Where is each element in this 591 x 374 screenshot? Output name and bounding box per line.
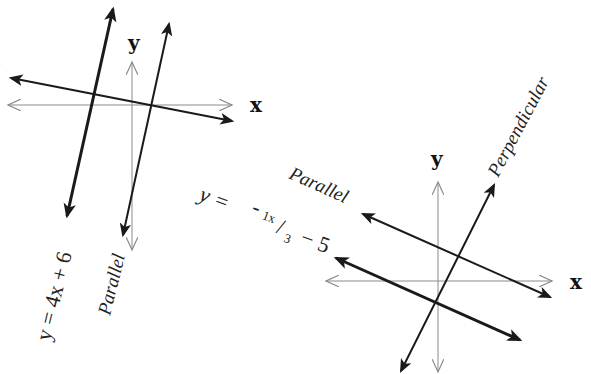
graph2-perpendicular-label: Perpendicular (483, 73, 554, 181)
graph2-parallel-line (363, 214, 550, 297)
graph-2: x y Perpendicular Parallel y = - 1x / 3 … (192, 73, 583, 372)
svg-text:Parallel: Parallel (93, 251, 129, 317)
svg-text:Perpendicular: Perpendicular (483, 73, 554, 181)
svg-text:y =: y = (194, 181, 233, 215)
svg-text:Parallel: Parallel (285, 162, 351, 207)
svg-text:− 5: − 5 (298, 224, 334, 257)
graph2-x-label: x (570, 270, 583, 294)
svg-text:3: 3 (282, 230, 293, 246)
graph1-parallel-line (123, 24, 169, 235)
graph1-given-line-label: y = 4x + 6 (31, 249, 77, 343)
svg-text:y = 4x + 6: y = 4x + 6 (31, 249, 77, 343)
graph2-y-label: y (430, 147, 444, 171)
graph1-y-label: y (127, 31, 141, 55)
graph1-given-line (67, 9, 113, 216)
graph1-parallel-label: Parallel (93, 251, 129, 317)
graph1-x-label: x (250, 93, 263, 117)
svg-text:1x: 1x (260, 208, 278, 227)
graph1-perpendicular-label: r (0, 55, 3, 77)
graph2-given-line (336, 258, 520, 340)
graph1-perpendicular-line (11, 78, 232, 121)
diagram-canvas: x y r y = 4x + 6 Parallel x y Perpendicu… (0, 0, 591, 374)
graph-1: x y r y = 4x + 6 Parallel (0, 9, 263, 343)
graph2-perpendicular-line (401, 185, 494, 371)
graph2-parallel-label: Parallel (285, 162, 351, 207)
